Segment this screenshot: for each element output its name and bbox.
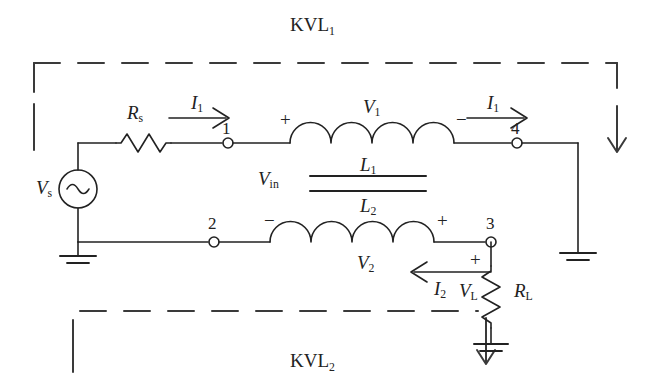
resistor-rs	[116, 134, 171, 152]
inductor-l2	[270, 221, 434, 242]
node-1-terminal	[223, 138, 233, 148]
node-2-terminal	[209, 237, 219, 247]
polarity-load-top: +	[470, 250, 481, 269]
current-i2-label: I2	[434, 279, 446, 301]
node-2-label: 2	[208, 215, 217, 232]
polarity-l2-left: −	[264, 211, 275, 230]
voltage-vl-label: VL	[459, 281, 478, 303]
kvl2-label: KVL2	[290, 350, 335, 375]
polarity-l1-right: −	[456, 110, 467, 129]
kvl1-loop-corners	[34, 63, 617, 92]
polarity-l2-right: +	[437, 211, 448, 230]
transformer-core-lines	[310, 176, 426, 191]
inductor-l2-label: L2	[360, 196, 376, 218]
inductor-l1-label: L1	[360, 155, 376, 177]
kvl1-label: KVL1	[290, 14, 335, 39]
ground-right	[560, 253, 596, 260]
kvl2-direction-arrow	[477, 318, 495, 364]
current-i1-right-label: I1	[487, 93, 499, 115]
source-label: Vs	[36, 178, 52, 200]
inductor-l1	[290, 122, 454, 143]
voltage-vin-label: Vin	[258, 169, 279, 191]
kvl1-direction-arrow	[608, 106, 626, 152]
resistor-rl-label: RL	[514, 281, 533, 303]
voltage-v1-label: V1	[363, 97, 381, 119]
circuit-diagram: KVL1 KVL2 Vs Rs I1 I1 I2 V1 L1 Vin L2 V2	[0, 0, 651, 381]
ac-source-sine	[67, 185, 89, 194]
resistor-rl	[482, 266, 500, 328]
voltage-v2-label: V2	[357, 253, 375, 275]
node-3-label: 3	[486, 215, 495, 232]
node-1-label: 1	[222, 120, 231, 137]
polarity-l1-left: +	[280, 110, 291, 129]
ground-source	[60, 242, 96, 263]
node-4-terminal	[512, 138, 522, 148]
current-i1-left-label: I1	[191, 93, 203, 115]
ground-load	[474, 344, 508, 351]
schematic-canvas	[0, 0, 651, 381]
node-4-label: 4	[511, 120, 520, 137]
resistor-rs-label: Rs	[127, 103, 143, 125]
